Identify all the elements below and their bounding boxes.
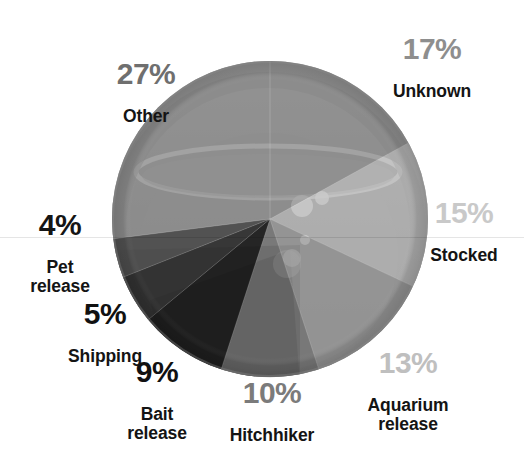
slice-percent-unknown: 17%: [352, 34, 512, 64]
slice-name-pet-release: Pet release: [8, 258, 112, 296]
pie-chart: 17% Unknown 15% Stocked 13% Aquarium rel…: [0, 0, 524, 452]
slice-label-stocked: 15% Stocked: [404, 182, 524, 281]
slice-name-aquarium-release: Aquarium release: [338, 396, 478, 434]
slice-label-other: 27% Other: [78, 43, 214, 142]
slice-name-other: Other: [78, 107, 214, 126]
slice-percent-hitchhiker: 10%: [206, 378, 338, 408]
slice-name-shipping: Shipping: [48, 347, 162, 366]
slice-label-unknown: 17% Unknown: [352, 18, 512, 117]
slice-name-bait-release: Bait release: [102, 405, 212, 443]
slice-label-aquarium-release: 13% Aquarium release: [338, 332, 478, 450]
slice-percent-stocked: 15%: [404, 198, 524, 228]
slice-percent-aquarium-release: 13%: [338, 348, 478, 378]
slice-label-hitchhiker: 10% Hitchhiker: [206, 362, 338, 452]
slice-label-pet-release: 4% Pet release: [8, 194, 112, 312]
slice-name-unknown: Unknown: [352, 82, 512, 101]
slice-percent-other: 27%: [78, 59, 214, 89]
slice-name-hitchhiker: Hitchhiker: [206, 426, 338, 445]
slice-name-stocked: Stocked: [404, 246, 524, 265]
slice-percent-pet-release: 4%: [8, 210, 112, 240]
